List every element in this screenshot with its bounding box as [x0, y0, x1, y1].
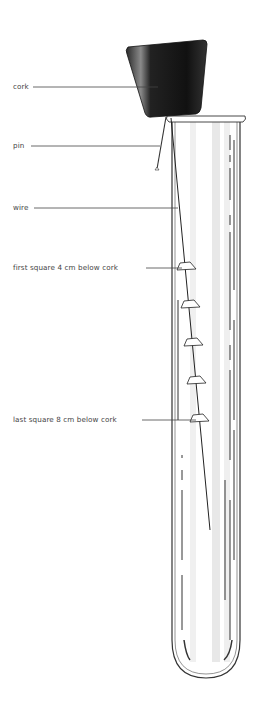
pin	[155, 117, 166, 170]
label-cork: cork	[13, 83, 29, 90]
label-wire: wire	[13, 204, 29, 211]
label-pin: pin	[13, 142, 24, 149]
test-tube	[166, 116, 245, 678]
label-last-square: last square 8 cm below cork	[13, 416, 117, 423]
test-tube-diagram	[0, 0, 258, 712]
label-first-square: first square 4 cm below cork	[13, 264, 118, 271]
leader-lines	[31, 87, 196, 420]
cork	[126, 40, 207, 117]
